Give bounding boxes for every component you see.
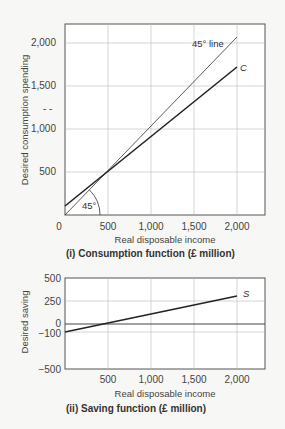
- stray-mark: - -: [43, 103, 52, 114]
- x-tick: 2,000: [224, 221, 249, 232]
- x-tick: 2,000: [224, 374, 249, 385]
- y-tick: 500: [44, 273, 61, 284]
- caption: (ii) Saving function (£ million): [66, 403, 206, 414]
- x-tick: 500: [100, 374, 117, 385]
- plot-frame: [65, 24, 265, 215]
- figure: 45° 45° line C 2,000 1,500 1,000 500 - -…: [0, 0, 285, 429]
- line45-label: 45° line: [192, 38, 224, 49]
- x-tick: 1,000: [138, 374, 163, 385]
- x-axis-label: Real disposable income: [115, 234, 216, 245]
- x-tick: 0: [56, 221, 62, 232]
- y-tick: 500: [39, 166, 56, 177]
- y-tick: 1,500: [31, 80, 56, 91]
- x-tick: 500: [100, 221, 117, 232]
- consumption-chart: 45° 45° line C 2,000 1,500 1,000 500 - -…: [19, 24, 265, 259]
- y-tick: 2,000: [31, 37, 56, 48]
- x-axis-label: Real disposable income: [115, 388, 216, 399]
- caption: (i) Consumption function (£ million): [66, 248, 235, 259]
- x-tick: 1,500: [181, 221, 206, 232]
- x-tick: 1,500: [181, 374, 206, 385]
- y-tick: −500: [38, 364, 61, 375]
- y-axis-label: Desired saving: [19, 291, 30, 354]
- y-axis-label: Desired consumption spending: [19, 55, 30, 185]
- angle-label: 45°: [82, 200, 97, 211]
- y-tick: 250: [44, 296, 61, 307]
- saving-chart: S 500 250 0 −100 −500 500 1,000 1,500 2,…: [19, 273, 265, 414]
- x-tick: 1,000: [138, 221, 163, 232]
- y-tick: −100: [38, 328, 61, 339]
- y-tick: 1,000: [31, 123, 56, 134]
- s-label: S: [243, 288, 250, 299]
- c-label: C: [240, 62, 247, 73]
